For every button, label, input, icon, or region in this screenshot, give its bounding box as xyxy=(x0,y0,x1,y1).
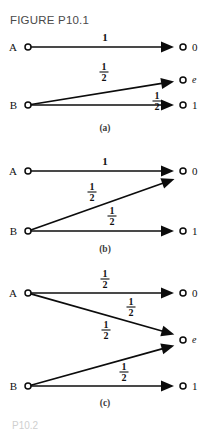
edge-a-to-0-weight: 1 xyxy=(102,31,108,43)
edge-b-to-0[interactable]: 12 xyxy=(31,178,175,230)
node-sink-1[interactable]: 1 xyxy=(180,380,198,392)
node-source-a-circle xyxy=(25,168,31,174)
edge-b-to-e-arrowhead xyxy=(160,344,174,355)
node-source-b-circle xyxy=(25,383,31,389)
edge-a-to-0-arrowhead xyxy=(161,166,174,177)
edge-b-to-e-shaft xyxy=(31,348,164,385)
node-source-a-circle xyxy=(25,44,31,50)
edge-a-to-0-arrowhead xyxy=(161,42,174,53)
node-source-b[interactable]: B xyxy=(10,99,31,111)
diagram-panel-c: 12121212A0eB1(c) xyxy=(9,268,198,409)
node-sink-1-label: 1 xyxy=(192,225,198,237)
signal-flow-diagram: 11212A0Be1(a)11212A0B1(b)12121212A0eB1(c… xyxy=(0,0,219,432)
node-sink-1-circle xyxy=(180,228,186,234)
edge-b-to-0-arrowhead xyxy=(160,178,174,188)
edge-b-to-e-weight-denominator: 2 xyxy=(102,72,107,83)
node-sink-e[interactable]: e xyxy=(180,334,197,345)
node-source-a[interactable]: A xyxy=(9,165,31,177)
edge-b-to-1-weight: 12 xyxy=(108,205,117,227)
edge-b-to-e-weight-denominator: 2 xyxy=(104,330,109,341)
edge-b-to-1-arrowhead xyxy=(161,226,174,237)
node-source-b[interactable]: B xyxy=(10,225,31,237)
node-sink-0[interactable]: 0 xyxy=(180,165,198,177)
edge-b-to-1-arrowhead xyxy=(161,381,174,392)
node-sink-e-circle xyxy=(180,77,186,83)
node-source-a-label: A xyxy=(9,165,17,177)
node-source-a-circle xyxy=(25,290,31,296)
node-sink-0-label: 0 xyxy=(192,165,198,177)
node-sink-e[interactable]: e xyxy=(180,74,197,85)
panel-caption-c: (c) xyxy=(100,398,111,409)
node-sink-e-label: e xyxy=(192,74,197,85)
node-sink-1[interactable]: 1 xyxy=(180,99,198,111)
edge-b-to-1-weight-numerator: 1 xyxy=(110,205,115,216)
node-sink-1-circle xyxy=(180,383,186,389)
panel-caption-a: (a) xyxy=(99,123,110,134)
node-sink-0-circle xyxy=(180,168,186,174)
node-sink-0-label: 0 xyxy=(192,41,198,53)
edge-b-to-e-shaft xyxy=(31,83,163,104)
node-sink-0[interactable]: 0 xyxy=(180,41,198,53)
edge-a-to-e-weight-numerator: 1 xyxy=(129,296,134,307)
edge-b-to-e-weight: 12 xyxy=(100,61,109,83)
node-source-b-circle xyxy=(25,102,31,108)
node-sink-1[interactable]: 1 xyxy=(180,225,198,237)
node-sink-1-label: 1 xyxy=(192,380,198,392)
edge-a-to-0[interactable]: 1 xyxy=(31,155,174,177)
edge-b-to-e-weight-numerator: 1 xyxy=(104,319,109,330)
node-sink-0-circle xyxy=(180,290,186,296)
next-figure-fragment: P10.2 xyxy=(12,420,52,430)
edge-b-to-0-weight: 12 xyxy=(88,181,97,203)
edge-a-to-0-weight-numerator: 1 xyxy=(103,268,108,279)
edge-b-to-1-arrowhead xyxy=(161,100,174,111)
node-source-b-label: B xyxy=(10,99,17,111)
edge-a-to-0-weight: 12 xyxy=(101,268,110,290)
node-sink-1-label: 1 xyxy=(192,99,198,111)
panel-caption-b: (b) xyxy=(99,244,111,255)
node-sink-0-label: 0 xyxy=(192,287,198,299)
figure-container: FIGURE P10.1 11212A0Be1(a)11212A0B1(b)12… xyxy=(0,0,219,432)
edge-b-to-1-weight-numerator: 1 xyxy=(155,90,160,101)
edge-a-to-e-arrowhead xyxy=(160,326,174,337)
node-source-b-label: B xyxy=(10,380,17,392)
edge-b-to-1-weight-numerator: 1 xyxy=(122,361,127,372)
edge-a-to-0-arrowhead xyxy=(161,288,174,299)
edge-b-to-0-weight-numerator: 1 xyxy=(90,181,95,192)
node-source-b-label: B xyxy=(10,225,17,237)
diagram-panel-a: 11212A0Be1(a) xyxy=(9,31,198,134)
edge-b-to-0-shaft xyxy=(31,183,164,230)
node-source-a-label: A xyxy=(9,287,17,299)
node-sink-e-label: e xyxy=(192,334,197,345)
node-source-a[interactable]: A xyxy=(9,41,31,53)
node-source-b-circle xyxy=(25,228,31,234)
edge-b-to-e-arrowhead xyxy=(160,78,174,89)
edge-a-to-e-weight: 12 xyxy=(127,296,136,318)
edge-a-to-0-weight: 1 xyxy=(102,155,108,167)
node-source-a[interactable]: A xyxy=(9,287,31,299)
node-source-a-label: A xyxy=(9,41,17,53)
node-sink-0-circle xyxy=(180,44,186,50)
edge-b-to-e-weight: 12 xyxy=(102,319,111,341)
node-sink-1-circle xyxy=(180,102,186,108)
node-sink-0[interactable]: 0 xyxy=(180,287,198,299)
edge-b-to-1-weight-denominator: 2 xyxy=(122,372,127,383)
edge-b-to-0-weight-denominator: 2 xyxy=(90,192,95,203)
edge-b-to-1-weight-denominator: 2 xyxy=(110,216,115,227)
edge-a-to-0[interactable]: 12 xyxy=(31,268,174,299)
edge-b-to-1-weight: 12 xyxy=(153,90,162,112)
diagram-panel-b: 11212A0B1(b) xyxy=(9,155,198,255)
edge-b-to-e-weight-numerator: 1 xyxy=(102,61,107,72)
edge-a-to-0[interactable]: 1 xyxy=(31,31,174,53)
node-sink-e-circle xyxy=(180,337,186,343)
edge-b-to-e[interactable]: 12 xyxy=(31,61,174,105)
edge-a-to-e-weight-denominator: 2 xyxy=(129,307,134,318)
edge-b-to-1[interactable]: 12 xyxy=(31,205,174,237)
node-source-b[interactable]: B xyxy=(10,380,31,392)
edge-b-to-1-weight-denominator: 2 xyxy=(155,101,160,112)
edge-a-to-e-shaft xyxy=(31,294,164,332)
edge-a-to-0-weight-denominator: 2 xyxy=(103,279,108,290)
edge-b-to-1-weight: 12 xyxy=(120,361,129,383)
